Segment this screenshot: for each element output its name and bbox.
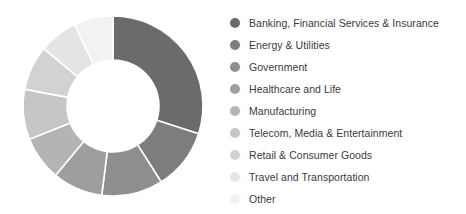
legend-item[interactable]: Telecom, Media & Entertainment (230, 122, 466, 144)
legend-item-label: Travel and Transportation (249, 171, 370, 183)
legend-swatch-icon (230, 172, 240, 182)
legend-swatch-icon (230, 40, 240, 50)
donut-slice[interactable] (113, 16, 203, 134)
legend-item[interactable]: Banking, Financial Services & Insurance (230, 12, 466, 34)
legend-swatch-icon (230, 62, 240, 72)
legend-item-label: Government (249, 61, 307, 73)
legend-item-label: Energy & Utilities (249, 39, 330, 51)
legend-item-label: Healthcare and Life (249, 83, 341, 95)
legend-item-label: Retail & Consumer Goods (249, 149, 372, 161)
legend-swatch-icon (230, 18, 240, 28)
legend-item[interactable]: Government (230, 56, 466, 78)
legend-item[interactable]: Healthcare and Life (230, 78, 466, 100)
chart-legend: Banking, Financial Services & InsuranceE… (230, 12, 466, 210)
legend-swatch-icon (230, 128, 240, 138)
legend-item-label: Telecom, Media & Entertainment (249, 127, 402, 139)
donut-chart-svg (0, 0, 226, 214)
legend-item-label: Manufacturing (249, 105, 316, 117)
legend-item[interactable]: Manufacturing (230, 100, 466, 122)
legend-swatch-icon (230, 84, 240, 94)
donut-slice-group (23, 16, 203, 196)
legend-item-label: Other (249, 193, 276, 205)
legend-item[interactable]: Travel and Transportation (230, 166, 466, 188)
legend-swatch-icon (230, 150, 240, 160)
legend-item[interactable]: Energy & Utilities (230, 34, 466, 56)
legend-item-label: Banking, Financial Services & Insurance (249, 17, 439, 29)
donut-chart-figure: Banking, Financial Services & InsuranceE… (0, 0, 466, 214)
legend-item[interactable]: Retail & Consumer Goods (230, 144, 466, 166)
donut-chart-plot-area (0, 0, 226, 214)
legend-item[interactable]: Other (230, 188, 466, 210)
legend-swatch-icon (230, 106, 240, 116)
legend-swatch-icon (230, 194, 240, 204)
